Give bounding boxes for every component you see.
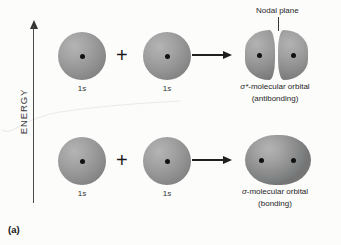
nucleus-dot xyxy=(80,54,85,59)
nucleus-dot xyxy=(80,159,85,164)
bonding-caption: σ-molecular orbital (bonding) xyxy=(205,186,341,209)
atomic-orbital-sphere xyxy=(58,137,106,185)
plus-sign: + xyxy=(116,45,128,65)
nucleus-dot xyxy=(257,53,262,58)
atomic-orbital-sphere xyxy=(58,32,106,80)
antibonding-caption: σ*-molecular orbital (antibonding) xyxy=(205,81,341,104)
orbital-label-1s: 1s xyxy=(52,84,112,93)
antibonding-row: 1s + 1s xyxy=(0,24,341,88)
nucleus-dot xyxy=(291,158,296,163)
bonding-row: 1s + 1s xyxy=(0,129,341,193)
orbital-label-1s: 1s xyxy=(137,84,197,93)
reaction-arrow-head xyxy=(223,156,232,164)
reaction-arrow-head xyxy=(223,51,232,59)
orbital-lobe-left xyxy=(245,30,275,80)
nucleus-dot xyxy=(165,159,170,164)
reaction-arrow-shaft xyxy=(192,54,224,56)
orbital-label-1s: 1s xyxy=(52,189,112,198)
orbital-label-1s: 1s xyxy=(137,189,197,198)
atomic-orbital-sphere xyxy=(143,137,191,185)
nucleus-dot xyxy=(165,54,170,59)
orbital-lobe-right xyxy=(278,30,308,80)
reaction-arrow-shaft xyxy=(192,159,224,161)
atomic-orbital-sphere xyxy=(143,32,191,80)
nucleus-dot xyxy=(259,158,264,163)
orbital-merged-shape xyxy=(245,135,311,185)
plus-sign: + xyxy=(116,150,128,170)
figure-caption: (a) xyxy=(8,224,20,235)
nucleus-dot xyxy=(291,53,296,58)
nodal-plane-label: Nodal plane xyxy=(256,6,299,15)
nodal-plane-leader-line xyxy=(278,17,279,31)
molecular-orbital-diagram: ENERGY 1s + 1s Nodal plane σ*-molecular … xyxy=(0,0,341,245)
